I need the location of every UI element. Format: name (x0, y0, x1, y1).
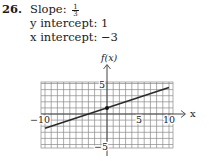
tick-label-y-5: 5 (99, 79, 105, 90)
tick-label-x-5: 5 (136, 114, 142, 125)
tick-label-x-neg-10: −10 (30, 114, 50, 125)
y-intercept-point (105, 106, 109, 110)
tick-label-x-10: 10 (163, 114, 175, 125)
tick-label-y-neg-5: −5 (94, 141, 108, 152)
x-axis-label: x (190, 108, 196, 119)
y-axis-label: f(x) (100, 52, 118, 63)
graph: f(x) x −10 5 10 5 −5 (0, 0, 209, 161)
